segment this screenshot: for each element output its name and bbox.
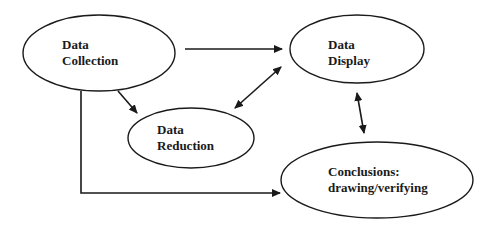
node-data-display: Data Display xyxy=(290,15,424,83)
label-data-display-line2: Display xyxy=(328,53,370,68)
label-data-reduction-line2: Reduction xyxy=(157,138,215,153)
label-data-collection-line2: Collection xyxy=(62,53,119,68)
label-conclusions-line2: drawing/verifying xyxy=(328,180,428,195)
label-conclusions-line1: Conclusions: xyxy=(328,164,400,179)
edge-reduction-display-double xyxy=(235,67,281,108)
label-data-reduction-line1: Data xyxy=(157,122,184,137)
node-conclusions: Conclusions: drawing/verifying xyxy=(281,142,473,218)
node-data-collection: Data Collection xyxy=(23,15,175,91)
diagram-canvas: Data Collection Data Display Data Reduct… xyxy=(0,0,496,228)
label-data-collection-line1: Data xyxy=(62,37,89,52)
label-data-display-line1: Data xyxy=(328,37,355,52)
node-data-reduction: Data Reduction xyxy=(128,108,254,168)
edge-display-conclusions-double xyxy=(357,93,364,133)
ellipse-data-display xyxy=(290,15,424,83)
edge-collection-to-reduction xyxy=(118,91,137,113)
